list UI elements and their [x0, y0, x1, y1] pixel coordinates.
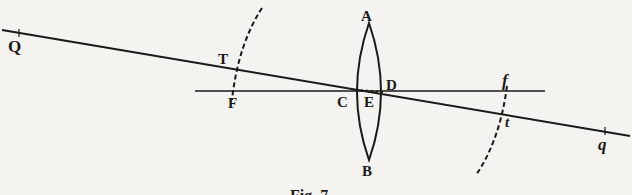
oblique-ray	[2, 30, 630, 136]
label-A: A	[361, 8, 372, 24]
figure-caption: Fig. 7	[290, 187, 328, 195]
label-q: q	[598, 135, 607, 154]
label-B: B	[362, 163, 372, 179]
label-F: F	[228, 95, 237, 111]
right-dashed-arc	[476, 86, 507, 175]
lens-diagram: Q T F A B C E D f t q Fig. 7	[0, 0, 632, 195]
label-E: E	[364, 94, 374, 110]
left-dashed-arc	[232, 8, 262, 100]
label-C: C	[337, 94, 348, 110]
label-D: D	[386, 77, 397, 93]
label-Q: Q	[8, 37, 21, 56]
label-T: T	[218, 51, 228, 67]
label-f: f	[502, 71, 510, 90]
